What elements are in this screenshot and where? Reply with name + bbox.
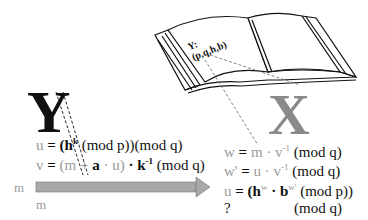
verifier-label: X xyxy=(268,86,310,144)
verifier-equation-w: w = m · v-1 (mod q) xyxy=(224,145,342,160)
message-label: m xyxy=(14,180,24,196)
question-mark: ? xyxy=(224,200,231,216)
verifier-equation-question: ? (mod q) xyxy=(224,201,364,216)
signer-label: Y xyxy=(27,82,70,142)
message-label-below: m xyxy=(36,197,46,213)
verifier-equation-u-check: u = (hw · bw' (mod p)) xyxy=(224,184,353,199)
signer-equation-v: v = (m + a · u) · k-1 (mod q) xyxy=(36,158,205,173)
verifier-equation-w-prime: w' = u · v-1 (mod q) xyxy=(224,164,340,179)
signer-equation-u: u = (hk (mod p))(mod q) xyxy=(36,138,182,153)
mod-q-label: (mod q) xyxy=(294,201,342,216)
